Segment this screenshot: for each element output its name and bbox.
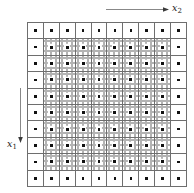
node-marker	[161, 128, 164, 131]
grid-cell-boundary	[171, 105, 187, 121]
grid-cell-interior	[107, 56, 123, 72]
node-marker	[66, 95, 69, 98]
grid-cell-interior	[155, 56, 171, 72]
grid-cell-interior	[44, 154, 60, 170]
grid-cell-boundary	[171, 39, 187, 55]
node-marker	[82, 144, 85, 147]
grid-cell-boundary	[171, 89, 187, 105]
grid-cell-interior	[76, 154, 92, 170]
node-marker	[113, 111, 116, 114]
node-marker	[34, 46, 37, 49]
node-marker	[98, 160, 101, 163]
grid-cell-interior	[123, 89, 139, 105]
grid-cell-boundary	[60, 23, 76, 39]
grid-cell-boundary	[28, 89, 44, 105]
node-marker	[161, 78, 164, 81]
node-marker	[161, 160, 164, 163]
grid-cell-boundary	[123, 171, 139, 187]
node-marker	[113, 62, 116, 65]
grid-cell-interior	[107, 138, 123, 154]
node-marker	[34, 95, 37, 98]
grid-cell-boundary	[107, 23, 123, 39]
node-marker	[50, 111, 53, 114]
grid-cell-interior	[123, 72, 139, 88]
grid-cell-interior	[139, 39, 155, 55]
node-marker	[145, 78, 148, 81]
grid-cell-interior	[155, 72, 171, 88]
grid-cell-interior	[60, 39, 76, 55]
grid-cell-interior	[60, 105, 76, 121]
grid-cell-interior	[60, 72, 76, 88]
node-marker	[34, 79, 37, 82]
grid-cell-interior	[76, 72, 92, 88]
node-marker	[113, 128, 116, 131]
grid-cell-interior	[107, 154, 123, 170]
node-marker	[145, 144, 148, 147]
node-marker	[114, 177, 117, 180]
node-marker	[114, 29, 117, 32]
node-marker	[161, 62, 164, 65]
node-marker	[129, 62, 132, 65]
grid-cell-interior	[76, 121, 92, 137]
grid-cell-interior	[76, 89, 92, 105]
grid-cell-interior	[92, 138, 108, 154]
node-marker	[98, 78, 101, 81]
grid-cell-interior	[139, 72, 155, 88]
node-marker	[34, 62, 37, 65]
grid-cell-interior	[107, 89, 123, 105]
node-marker	[50, 78, 53, 81]
node-marker	[161, 177, 164, 180]
node-marker	[177, 95, 180, 98]
grid-cell-boundary	[171, 138, 187, 154]
grid-cell-interior	[44, 72, 60, 88]
grid-cell-boundary	[92, 23, 108, 39]
node-marker	[66, 78, 69, 81]
node-marker	[177, 29, 180, 32]
grid-cell-interior	[44, 121, 60, 137]
grid-cell-boundary	[171, 154, 187, 170]
node-marker	[98, 62, 101, 65]
node-marker	[50, 62, 53, 65]
grid-cell-interior	[107, 39, 123, 55]
node-marker	[145, 95, 148, 98]
grid-cell-interior	[92, 39, 108, 55]
grid-cell-boundary	[139, 171, 155, 187]
grid-cell-boundary	[171, 121, 187, 137]
grid-cell-interior	[139, 89, 155, 105]
x1-axis-label: x1	[7, 139, 17, 151]
node-marker	[34, 111, 37, 114]
node-marker	[161, 111, 164, 114]
node-marker	[161, 46, 164, 49]
node-marker	[145, 177, 148, 180]
x1-axis-label-subscript: 1	[13, 143, 17, 151]
grid-cell-boundary	[60, 171, 76, 187]
node-marker	[50, 95, 53, 98]
x2-axis-arrow-icon	[106, 5, 170, 14]
node-marker	[50, 29, 53, 32]
grid-cell-boundary	[155, 23, 171, 39]
node-marker	[82, 177, 85, 180]
node-marker	[161, 29, 164, 32]
grid-cell-interior	[155, 121, 171, 137]
node-marker	[145, 111, 148, 114]
grid-cell-interior	[60, 56, 76, 72]
node-marker	[177, 177, 180, 180]
grid-cell-interior	[139, 105, 155, 121]
grid-cell-interior	[44, 56, 60, 72]
node-marker	[177, 111, 180, 114]
grid-cell-interior	[155, 138, 171, 154]
grid-cell-boundary	[76, 23, 92, 39]
node-marker	[129, 95, 132, 98]
node-marker	[113, 78, 116, 81]
grid-cell-boundary	[139, 23, 155, 39]
grid-cell-interior	[60, 121, 76, 137]
node-marker	[34, 29, 37, 32]
node-marker	[145, 62, 148, 65]
grid-cell-interior	[123, 105, 139, 121]
node-marker	[66, 128, 69, 131]
node-marker	[66, 160, 69, 163]
node-marker	[177, 46, 180, 49]
x1-axis-arrow-icon	[16, 88, 25, 144]
node-marker	[34, 144, 37, 147]
grid-cell-interior	[107, 105, 123, 121]
